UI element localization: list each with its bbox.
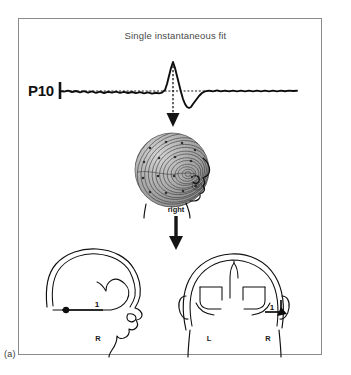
coronal-left-label: L xyxy=(207,334,212,343)
coronal-view: 1 L R xyxy=(179,254,289,357)
coronal-left-ventricle-top xyxy=(200,287,222,300)
coronal-left-neck xyxy=(188,330,190,357)
coronal-midline-fissure xyxy=(230,261,234,298)
figure-root: (a) Single instantaneous fit P10 xyxy=(0,0,351,375)
sagittal-view: 1 R xyxy=(46,249,142,357)
fit-time-arrow-head-icon xyxy=(167,113,180,127)
sagittal-orbit xyxy=(127,314,136,322)
coronal-midline-fissure-right xyxy=(234,263,238,278)
figure-graphics: right 1 R xyxy=(0,0,351,375)
coronal-right-ventricle-top xyxy=(243,287,265,300)
sagittal-dipole-marker xyxy=(63,307,69,313)
sagittal-brain-outline xyxy=(53,279,129,310)
coronal-left-ventricle xyxy=(200,287,221,309)
coronal-right-ventricle xyxy=(244,287,265,309)
flow-arrow xyxy=(169,216,183,250)
jaw-outline xyxy=(186,203,190,218)
coronal-scalp-outline xyxy=(183,254,283,330)
meg-trace xyxy=(60,62,297,108)
coronal-right-label: R xyxy=(265,334,271,343)
coronal-right-neck xyxy=(279,330,281,357)
sagittal-inner-skull xyxy=(52,254,135,307)
coronal-dipole-number: 1 xyxy=(270,303,275,312)
neck-outline xyxy=(144,204,146,218)
sagittal-dipole-number: 1 xyxy=(95,300,100,309)
orientation-label: right xyxy=(168,205,185,214)
sagittal-side-label: R xyxy=(95,334,101,343)
waveform-group xyxy=(60,62,297,127)
